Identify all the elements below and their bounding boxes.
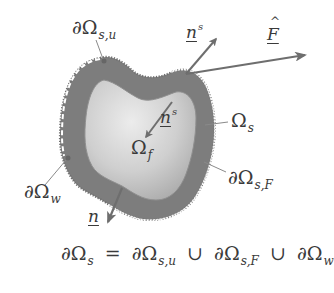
label-main: n (160, 107, 171, 127)
label-normal: n (88, 208, 99, 225)
eq-lhs-sub: s (88, 254, 94, 268)
label-outer-normal: ns (186, 24, 203, 41)
label-main: n (88, 206, 99, 226)
label-main: ∂Ω (24, 180, 50, 202)
label-inner-normal: ns (160, 109, 177, 126)
eq-union-1: ∪ (187, 242, 203, 264)
eq-term-3-main: ∂Ω (297, 242, 323, 264)
label-sup: s (198, 21, 203, 32)
label-sub: s,u (99, 28, 117, 42)
eq-union-2: ∪ (270, 242, 286, 264)
label-main: Ω (131, 136, 147, 158)
label-solid-domain: Ωs (231, 111, 254, 130)
boundary-equation: ∂Ωs = ∂Ωs,u ∪ ∂Ωs,F ∪ ∂Ωw (61, 244, 334, 263)
eq-term-3-sub: w (324, 254, 334, 268)
leader-line-su (96, 40, 103, 59)
label-fluid-domain: Ωf (131, 138, 152, 157)
label-main: Ω (231, 109, 247, 131)
eq-lhs-main: ∂Ω (61, 242, 87, 264)
label-main: n (186, 22, 197, 42)
eq-term-1-main: ∂Ω (132, 242, 158, 264)
label-main: ∂Ω (72, 16, 98, 38)
force-arrow (186, 55, 305, 74)
boundary-marker-left (66, 156, 71, 161)
eq-term-2-sub: s,F (241, 254, 259, 268)
label-sub: s (248, 121, 254, 135)
eq-term-2-main: ∂Ω (214, 242, 240, 264)
label-boundary-sF: ∂Ωs,F (228, 168, 273, 187)
eq-term-1-sub: s,u (158, 254, 176, 268)
label-sub: f (148, 148, 152, 162)
label-sub: s,F (255, 178, 273, 192)
label-force: F (267, 26, 279, 43)
label-main: F (267, 26, 279, 43)
outer-normal-arrow (186, 39, 216, 74)
label-sub: w (51, 192, 61, 206)
boundary-marker-top (102, 59, 107, 64)
label-boundary-su: ∂Ωs,u (72, 18, 116, 37)
label-main: ∂Ω (228, 166, 254, 188)
label-sup: s (172, 106, 177, 117)
label-boundary-w: ∂Ωw (24, 182, 61, 201)
eq-equals: = (105, 242, 121, 264)
